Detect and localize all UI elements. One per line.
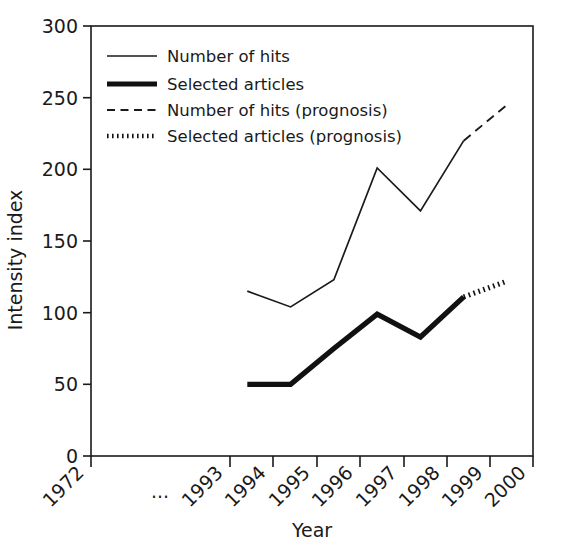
y-tick-label-50: 50 (54, 373, 78, 395)
plot-frame (91, 26, 533, 456)
x-axis-break-ellipsis: ... (151, 480, 169, 502)
legend-label-selected-articles: Selected articles (167, 75, 304, 94)
legend-label-selected-articles-prognosis: Selected articles (prognosis) (167, 127, 402, 146)
y-tick-label-200: 200 (42, 158, 78, 180)
line-chart: 0 50 100 150 200 250 300 Intensity index… (0, 0, 565, 547)
chart-legend: Number of hits Selected articles Number … (107, 47, 402, 146)
y-tick-label-150: 150 (42, 230, 78, 252)
y-tick-label-250: 250 (42, 87, 78, 109)
y-tick-label-300: 300 (42, 15, 78, 37)
y-axis-title: Intensity index (4, 190, 26, 331)
x-tick-label-2000: 2000 (480, 461, 530, 511)
series-selected-articles (247, 297, 463, 384)
x-tick-label-1997: 1997 (351, 461, 401, 511)
series-selected-articles-prognosis (464, 281, 507, 297)
chart-container: 0 50 100 150 200 250 300 Intensity index… (0, 0, 565, 547)
y-axis-ticks (83, 26, 91, 456)
y-tick-label-100: 100 (42, 302, 78, 324)
series-number-of-hits (247, 141, 463, 307)
series-number-of-hits-prognosis (464, 105, 507, 141)
legend-label-number-of-hits-prognosis: Number of hits (prognosis) (167, 101, 388, 120)
legend-label-number-of-hits: Number of hits (167, 47, 290, 66)
x-tick-label-1972: 1972 (38, 461, 88, 511)
x-tick-label-1996: 1996 (307, 461, 357, 511)
x-tick-label-1994: 1994 (220, 461, 270, 511)
x-tick-label-1998: 1998 (394, 461, 444, 511)
x-tick-label-1993: 1993 (177, 461, 227, 511)
x-tick-label-1999: 1999 (437, 461, 487, 511)
x-tick-label-1995: 1995 (264, 461, 314, 511)
x-axis-title: Year (291, 519, 332, 541)
